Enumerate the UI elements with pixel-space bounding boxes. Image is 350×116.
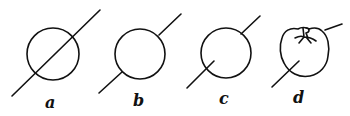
figure-a [12, 10, 100, 96]
figure-d [272, 24, 342, 87]
circle-shape-a [27, 28, 79, 80]
circle-shape-c [201, 28, 251, 78]
line-lower-b [99, 72, 122, 93]
figure-b [99, 14, 181, 93]
line-upper-d [325, 24, 342, 30]
line-through-a [12, 10, 100, 96]
line-upper-c [241, 16, 260, 34]
tomato-stem-icon [295, 28, 316, 43]
label-c: c [219, 89, 229, 108]
label-b: b [133, 91, 144, 110]
label-a: a [45, 93, 55, 112]
figure-c [187, 16, 260, 88]
line-lower-c [187, 61, 214, 88]
line-upper-b [159, 14, 181, 35]
label-d: d [293, 88, 304, 107]
